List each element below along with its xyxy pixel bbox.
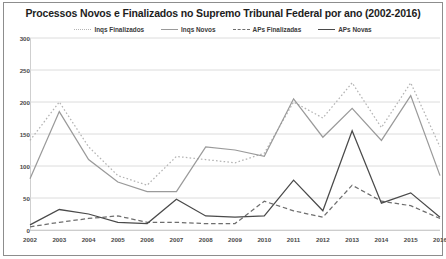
legend-item-aps-finalizadas[interactable]: APs Finalizadas: [233, 26, 302, 33]
x-tick-label: 2005: [111, 236, 125, 243]
legend-swatch-solid-dark-icon: [318, 29, 335, 30]
y-tick-label: 50: [23, 195, 30, 202]
legend-swatch-solid-icon: [161, 29, 178, 30]
chart-container: Processos Novos e Finalizados no Supremo…: [0, 0, 446, 259]
y-tick-label: 100: [20, 163, 30, 170]
legend-label-inqs-novos: Inqs Novos: [181, 26, 215, 33]
series-line-aps-novas: [30, 131, 440, 225]
y-tick-label: 200: [20, 99, 30, 106]
legend-label-aps-finalizadas: APs Finalizadas: [253, 26, 302, 33]
legend-item-inqs-finalizados[interactable]: Inqs Finalizados: [74, 26, 144, 33]
plot-svg: [30, 38, 440, 230]
x-tick-label: 2002: [23, 236, 37, 243]
y-axis-labels: 050100150200250300: [6, 38, 30, 230]
series-line-inqs-novos: [30, 96, 440, 192]
y-tick-label: 250: [20, 67, 30, 74]
x-axis-labels: 2002200320042005200620072008200920102011…: [30, 236, 440, 248]
legend-swatch-dashed-icon: [233, 29, 250, 30]
x-tick-label: 2014: [375, 236, 389, 243]
chart-title: Processos Novos e Finalizados no Supremo…: [0, 7, 446, 19]
x-tick-label: 2003: [52, 236, 66, 243]
legend-label-inqs-finalizados: Inqs Finalizados: [94, 26, 144, 33]
y-tick-label: 300: [20, 35, 30, 42]
x-tick-label: 2015: [404, 236, 418, 243]
x-tick-label: 2004: [82, 236, 96, 243]
legend-item-inqs-novos[interactable]: Inqs Novos: [161, 26, 215, 33]
x-tick-label: 2012: [316, 236, 330, 243]
x-tick-label: 2016: [433, 236, 446, 243]
legend-swatch-dotted-icon: [74, 29, 91, 30]
x-tick-label: 2008: [199, 236, 213, 243]
x-tick-label: 2007: [170, 236, 184, 243]
series-line-aps-finalizadas: [30, 185, 440, 227]
chart-legend: Inqs Finalizados Inqs Novos APs Finaliza…: [0, 26, 446, 33]
x-tick-label: 2010: [257, 236, 271, 243]
x-tick-label: 2013: [345, 236, 359, 243]
x-tick-label: 2006: [140, 236, 154, 243]
legend-item-aps-novas[interactable]: APs Novas: [318, 26, 371, 33]
y-tick-label: 150: [20, 131, 30, 138]
legend-label-aps-novas: APs Novas: [338, 26, 371, 33]
x-tick-label: 2011: [287, 236, 300, 243]
x-tick-label: 2009: [228, 236, 242, 243]
plot-area: [30, 38, 440, 230]
